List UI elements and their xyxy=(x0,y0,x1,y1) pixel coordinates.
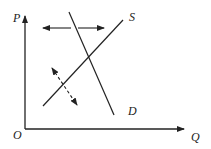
supply-label: S xyxy=(129,10,135,24)
supply-demand-diagram: P O Q S D xyxy=(0,0,211,149)
diagram-canvas: P O Q S D xyxy=(0,0,211,149)
origin-label: O xyxy=(13,128,22,142)
x-axis-label: Q xyxy=(191,130,200,144)
supply-curve xyxy=(43,20,123,106)
demand-label: D xyxy=(127,104,137,118)
y-axis-label: P xyxy=(12,11,21,25)
